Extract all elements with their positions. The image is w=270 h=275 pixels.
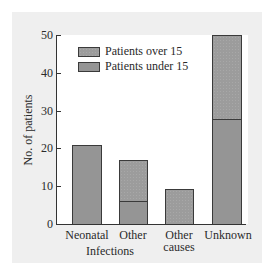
segment-under-15 bbox=[120, 202, 147, 224]
y-tick-20 bbox=[56, 148, 61, 149]
bar-other-infections bbox=[119, 160, 148, 225]
segment-over-15 bbox=[120, 161, 147, 202]
x-label-other-causes-line2: causes bbox=[149, 241, 209, 253]
y-tick-label-40: 40 bbox=[31, 67, 53, 79]
legend-swatch-over-15 bbox=[78, 47, 100, 57]
y-tick-10 bbox=[56, 186, 61, 187]
segment-under-15 bbox=[213, 120, 241, 224]
y-tick-label-50: 50 bbox=[31, 29, 53, 41]
segment-divider bbox=[213, 119, 241, 120]
x-axis bbox=[56, 224, 246, 225]
y-tick-0 bbox=[56, 224, 61, 225]
y-tick-50 bbox=[56, 35, 61, 36]
bar-other-causes bbox=[165, 189, 194, 225]
segment-over-15 bbox=[213, 36, 241, 120]
legend-label-over-15: Patients over 15 bbox=[105, 44, 182, 59]
legend-swatch-under-15 bbox=[78, 62, 100, 72]
bar-neonatal bbox=[72, 145, 102, 225]
y-tick-30 bbox=[56, 111, 61, 112]
y-tick-label-0: 0 bbox=[31, 218, 53, 230]
legend-item-over-15: Patients over 15 bbox=[78, 44, 188, 59]
legend-item-under-15: Patients under 15 bbox=[78, 59, 188, 74]
legend: Patients over 15 Patients under 15 bbox=[78, 44, 188, 74]
y-axis bbox=[56, 35, 57, 225]
segment-divider bbox=[120, 201, 147, 202]
x-label-unknown: Unknown bbox=[198, 229, 258, 241]
legend-label-under-15: Patients under 15 bbox=[105, 59, 188, 74]
y-tick-label-10: 10 bbox=[31, 180, 53, 192]
x-group-label-infections: Infections bbox=[80, 245, 140, 257]
y-tick-40 bbox=[56, 73, 61, 74]
bar-unknown bbox=[212, 35, 242, 225]
y-axis-label: No. of patients bbox=[21, 95, 36, 166]
